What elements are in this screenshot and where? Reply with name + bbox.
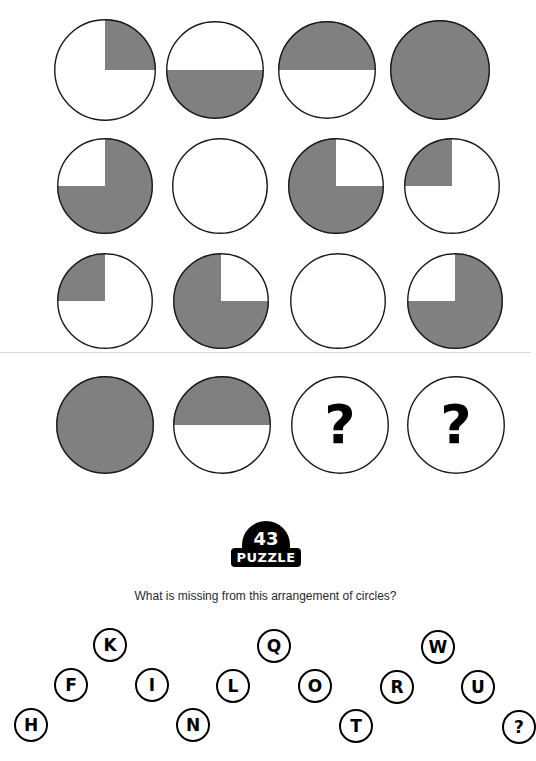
answer-option-f[interactable]: F <box>54 668 88 702</box>
puzzle-circle-r1c2 <box>166 21 264 119</box>
answer-option-label: I <box>149 677 155 694</box>
puzzle-circle-r4c2 <box>173 376 271 474</box>
answer-option-h[interactable]: H <box>14 708 48 742</box>
puzzle-circle-r4c1 <box>56 376 154 474</box>
circle-grid: ?? <box>0 0 531 500</box>
answer-option-label: H <box>24 717 38 734</box>
puzzle-circle-r1c4 <box>390 20 490 120</box>
puzzle-circle-r3c4 <box>407 253 503 349</box>
puzzle-circle-r4c4[interactable]: ? <box>407 376 505 474</box>
answer-option-label: L <box>228 678 239 695</box>
badge-word: PUZZLE <box>236 551 295 564</box>
puzzle-badge: 43 PUZZLE <box>231 521 301 569</box>
answer-option-o[interactable]: O <box>298 669 332 703</box>
badge-number: 43 <box>253 524 278 548</box>
page-divider-rule <box>0 352 531 353</box>
puzzle-circle-r3c1 <box>57 253 153 349</box>
answer-option-u[interactable]: U <box>461 670 495 704</box>
badge-number-plate: 43 <box>242 521 290 551</box>
answer-option-label: U <box>471 679 485 696</box>
answer-option-label: R <box>390 679 403 696</box>
answer-option-label: N <box>186 717 200 734</box>
puzzle-circle-r4c3[interactable]: ? <box>291 376 389 474</box>
missing-question-mark: ? <box>407 376 505 474</box>
puzzle-circle-r3c2 <box>173 253 269 349</box>
answer-letter-row: HFKINLQOTRWU? <box>0 620 531 761</box>
answer-option-r[interactable]: R <box>380 670 414 704</box>
answer-option-i[interactable]: I <box>135 668 169 702</box>
missing-question-mark: ? <box>291 376 389 474</box>
answer-option-label: Q <box>267 638 281 655</box>
answer-option-n[interactable]: N <box>176 708 210 742</box>
puzzle-circle-r3c3 <box>290 253 386 349</box>
puzzle-question: What is missing from this arrangement of… <box>0 589 531 603</box>
answer-option-w[interactable]: W <box>421 630 455 664</box>
answer-option-k[interactable]: K <box>93 628 127 662</box>
answer-option-label: O <box>308 678 322 695</box>
answer-option-label: ? <box>514 719 524 736</box>
puzzle-circle-r2c2 <box>172 138 268 234</box>
answer-option-t[interactable]: T <box>339 709 373 743</box>
puzzle-circle-r1c1 <box>54 19 156 121</box>
puzzle-circle-r2c4 <box>404 138 500 234</box>
answer-option-unknown[interactable]: ? <box>502 710 536 744</box>
puzzle-circle-r2c1 <box>57 138 153 234</box>
puzzle-circle-r2c3 <box>288 138 384 234</box>
answer-option-l[interactable]: L <box>216 669 250 703</box>
puzzle-circle-r1c3 <box>278 21 376 119</box>
answer-option-q[interactable]: Q <box>257 629 291 663</box>
answer-option-label: T <box>350 718 362 735</box>
badge-word-plate: PUZZLE <box>231 548 301 567</box>
answer-option-label: W <box>429 639 448 656</box>
answer-option-label: F <box>65 677 77 694</box>
answer-option-label: K <box>103 637 116 654</box>
